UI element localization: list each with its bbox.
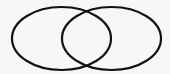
venn-diagram [0,0,170,74]
